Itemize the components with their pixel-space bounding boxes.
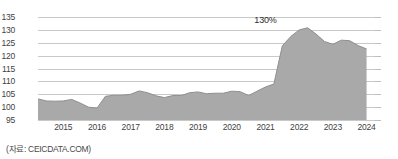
y-tick-label: 115 <box>2 64 15 74</box>
y-axis: 95100105110115120125130135 <box>0 0 38 159</box>
x-tick-label: 2018 <box>155 122 173 132</box>
x-tick-label: 2015 <box>54 122 72 132</box>
right-axis-tick <box>375 56 381 57</box>
right-axis-tick <box>375 69 381 70</box>
x-tick-label: 2017 <box>122 122 140 132</box>
x-tick-label: 2019 <box>189 122 207 132</box>
y-tick-label: 125 <box>1 38 15 48</box>
y-tick-label: 120 <box>1 51 15 61</box>
x-tick-label: 2021 <box>256 122 274 132</box>
y-tick-label: 95 <box>6 115 15 125</box>
right-axis-tick <box>375 43 381 44</box>
x-tick-label: 2020 <box>223 122 241 132</box>
right-axis-tick <box>375 30 381 31</box>
right-axis-tick <box>375 17 381 18</box>
right-axis-ticks <box>375 17 383 120</box>
y-tick-label: 100 <box>1 102 15 112</box>
x-tick-label: 2024 <box>358 122 376 132</box>
y-tick-label: 135 <box>1 12 15 22</box>
right-axis-tick <box>375 107 381 108</box>
y-tick-label: 110 <box>2 76 15 86</box>
right-axis-tick <box>375 81 381 82</box>
right-axis-tick <box>375 94 381 95</box>
source-note: (자료: CEICDATA.COM) <box>6 142 91 154</box>
peak-value-annotation: 130% <box>254 15 276 25</box>
right-axis-tick <box>375 120 381 121</box>
area-series <box>38 17 375 120</box>
y-tick-label: 105 <box>1 89 15 99</box>
x-tick-label: 2023 <box>324 122 342 132</box>
plot-area <box>38 17 375 120</box>
y-tick-label: 130 <box>1 25 15 35</box>
x-tick-label: 2022 <box>290 122 308 132</box>
x-tick-label: 2016 <box>88 122 106 132</box>
household-debt-area-chart: 95100105110115120125130135 2015201620172… <box>0 0 398 159</box>
x-axis: 2015201620172018201920202021202220232024 <box>38 121 375 137</box>
